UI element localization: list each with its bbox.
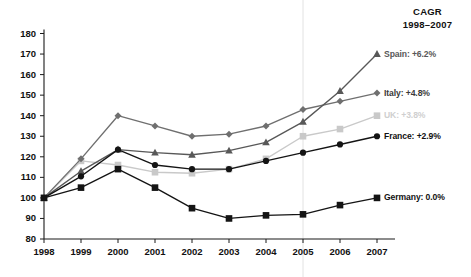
series-italy — [41, 90, 381, 202]
series-line — [44, 169, 377, 218]
data-point-marker — [374, 112, 381, 119]
data-point-marker — [226, 215, 233, 222]
x-tick-label: 2002 — [181, 246, 202, 257]
y-axis-ticks: 8090100110120130140150160170180 — [20, 28, 44, 245]
x-tick-label: 2004 — [255, 246, 277, 257]
data-point-marker — [300, 150, 306, 156]
y-tick-label: 140 — [20, 110, 36, 121]
legend-title-years: 1998–2007 — [384, 19, 471, 30]
legend-title-cagr: CAGR — [384, 6, 471, 17]
y-tick-label: 90 — [25, 212, 36, 223]
data-point-marker — [78, 184, 85, 191]
data-point-marker — [189, 166, 195, 172]
data-point-marker — [152, 122, 159, 129]
series-france — [41, 133, 380, 201]
x-tick-label: 2000 — [107, 246, 128, 257]
data-point-marker — [189, 133, 196, 140]
y-tick-label: 160 — [20, 69, 36, 80]
data-point-marker — [77, 167, 85, 174]
data-point-marker — [337, 141, 343, 147]
data-point-marker — [373, 50, 381, 57]
x-tick-label: 2001 — [144, 246, 166, 257]
data-point-marker — [374, 133, 380, 139]
data-point-marker — [41, 195, 47, 201]
y-tick-label: 80 — [25, 233, 36, 244]
y-tick-label: 170 — [20, 48, 36, 59]
series-line — [44, 116, 377, 198]
x-tick-label: 2006 — [329, 246, 350, 257]
data-point-marker — [226, 166, 232, 172]
chart-root: 8090100110120130140150160170180 19981999… — [0, 0, 471, 277]
data-point-marker — [337, 202, 344, 209]
legend-entry-spain: Spain: +6.2% — [384, 49, 436, 59]
data-point-marker — [374, 90, 381, 97]
series-spain — [40, 50, 381, 201]
y-tick-label: 130 — [20, 130, 36, 141]
series-line — [44, 93, 377, 198]
y-tick-label: 110 — [21, 171, 36, 182]
legend-entry-uk: UK: +3.8% — [384, 110, 425, 120]
legend-entry-france: France: +2.9% — [384, 131, 441, 141]
data-point-marker — [263, 212, 270, 219]
data-point-marker — [152, 184, 159, 191]
series-germany — [41, 166, 381, 222]
y-tick-label: 100 — [20, 192, 36, 203]
legend-entry-germany: Germany: 0.0% — [384, 192, 445, 202]
data-point-marker — [262, 138, 270, 145]
data-point-marker — [78, 173, 84, 179]
series-uk — [41, 112, 381, 201]
data-point-marker — [115, 166, 122, 173]
data-point-marker — [226, 131, 233, 138]
data-point-marker — [374, 195, 381, 202]
data-point-marker — [189, 205, 196, 212]
data-point-marker — [300, 133, 307, 140]
series-line — [44, 136, 377, 198]
x-tick-label: 2003 — [218, 246, 239, 257]
y-tick-label: 120 — [20, 151, 36, 162]
data-point-marker — [115, 147, 121, 153]
x-tick-label: 1998 — [33, 246, 54, 257]
data-point-marker — [152, 169, 159, 176]
legend: CAGR 1998–2007 Spain: +6.2%Italy: +4.8%U… — [384, 0, 471, 277]
data-point-marker — [337, 126, 344, 133]
data-point-marker — [152, 162, 158, 168]
x-axis-ticks: 1998199920002001200220032004200520062007 — [33, 239, 387, 257]
data-series-group — [40, 50, 381, 222]
y-tick-label: 180 — [20, 28, 36, 39]
y-tick-label: 150 — [20, 89, 36, 100]
x-tick-label: 1999 — [70, 246, 91, 257]
x-tick-label: 2005 — [292, 246, 314, 257]
series-line — [44, 54, 377, 198]
data-point-marker — [263, 122, 270, 129]
data-point-marker — [337, 98, 344, 105]
data-point-marker — [300, 211, 307, 218]
data-point-marker — [263, 158, 269, 164]
legend-entry-italy: Italy: +4.8% — [384, 88, 430, 98]
data-point-marker — [300, 106, 307, 113]
